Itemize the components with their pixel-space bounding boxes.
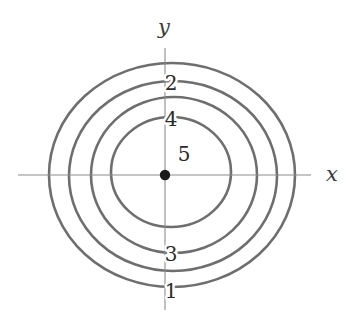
curve-label-4: 4 <box>165 107 178 131</box>
x-axis-label: x <box>326 162 338 186</box>
region-label-5: 5 <box>178 142 191 166</box>
curve-label-2: 2 <box>165 71 178 95</box>
figure-root: y x 2 4 5 3 1 <box>0 0 361 317</box>
contour-diagram-svg: y x 2 4 5 3 1 <box>0 0 361 317</box>
y-axis-label: y <box>157 15 171 39</box>
curve-label-1: 1 <box>165 279 178 303</box>
origin-point <box>160 170 170 180</box>
curve-label-3: 3 <box>165 242 178 266</box>
